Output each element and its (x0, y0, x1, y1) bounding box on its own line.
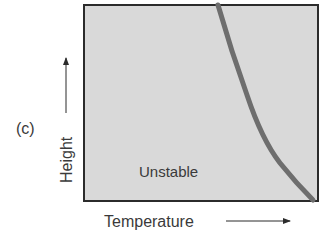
region-label-unstable: Unstable (139, 163, 198, 180)
x-axis-label: Temperature (104, 213, 194, 230)
panel-label: (c) (16, 120, 35, 137)
y-axis-label: Height (58, 136, 75, 183)
plot-area (84, 5, 318, 201)
stability-diagram: Unstable Temperature Height (c) (0, 0, 321, 238)
